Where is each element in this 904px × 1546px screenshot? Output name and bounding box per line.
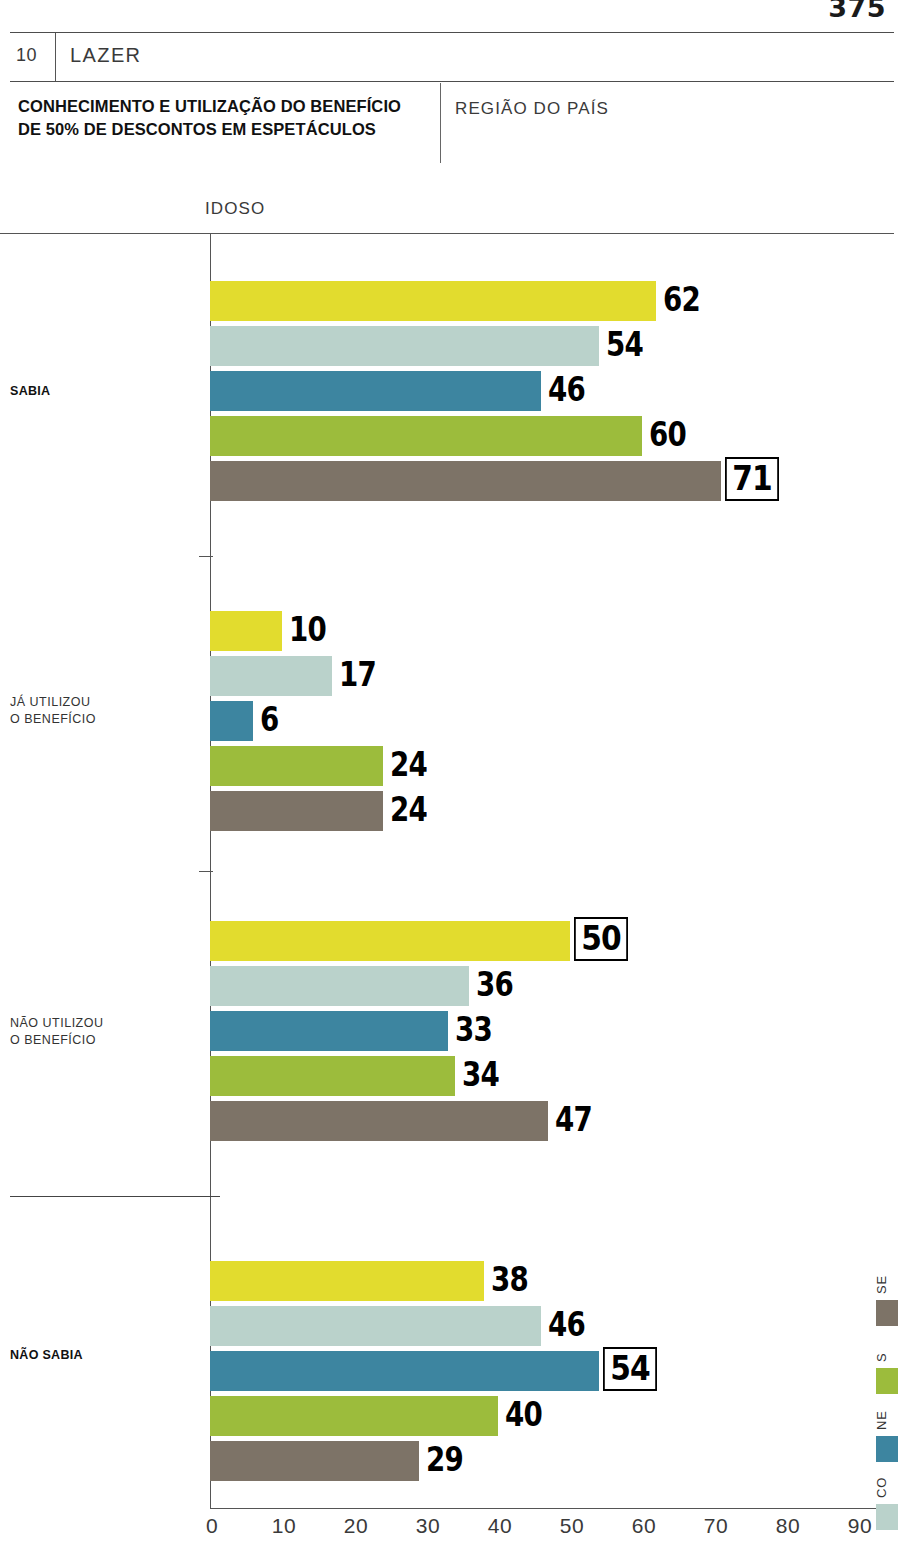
x-axis-tick-label: 70 <box>704 1514 728 1538</box>
bar-value: 46 <box>548 1308 585 1341</box>
bar-value: 10 <box>289 613 326 646</box>
legend-swatch <box>876 1300 898 1326</box>
group-label-line: O BENEFÍCIO <box>10 1032 104 1049</box>
bar-value: 34 <box>462 1058 499 1091</box>
bar-value: 47 <box>555 1103 592 1136</box>
chapter-name: LAZER <box>70 44 141 67</box>
series-group-label: IDOSO <box>205 199 265 219</box>
bar-value-highlighted: 50 <box>574 917 628 961</box>
header-rule-middle <box>10 81 894 82</box>
bar <box>210 371 541 411</box>
bar <box>210 1396 498 1436</box>
bar-value: 54 <box>606 328 643 361</box>
bar <box>210 921 570 961</box>
legend-swatch <box>876 1504 898 1530</box>
bar <box>210 701 253 741</box>
bar-value: 6 <box>260 703 278 736</box>
x-axis-tick-label: 0 <box>206 1514 218 1538</box>
bar-value: 24 <box>390 793 427 826</box>
group-label-line: NÃO SABIA <box>10 1347 83 1364</box>
page-subtitle: REGIÃO DO PAÍS <box>455 99 609 119</box>
bar <box>210 1306 541 1346</box>
group-separator-rule <box>10 1196 220 1197</box>
legend-label: S <box>874 1353 889 1362</box>
group-label: NÃO UTILIZOUO BENEFÍCIO <box>10 1015 104 1050</box>
bar-value: 38 <box>491 1263 528 1296</box>
bar <box>210 1351 599 1391</box>
x-axis-tick-label: 40 <box>488 1514 512 1538</box>
bar <box>210 1011 448 1051</box>
plot-top-rule <box>0 233 894 234</box>
bar <box>210 791 383 831</box>
bar <box>210 281 656 321</box>
y-axis-tick <box>199 556 213 557</box>
bar-value: 17 <box>339 658 376 691</box>
group-label-line: SABIA <box>10 383 50 400</box>
bar <box>210 461 721 501</box>
legend-label: CO <box>874 1477 889 1498</box>
bar <box>210 966 469 1006</box>
header-rule-top <box>10 32 894 33</box>
bar <box>210 611 282 651</box>
bar-value: 62 <box>663 283 700 316</box>
y-axis-tick <box>199 871 213 872</box>
page-number: 375 <box>828 0 886 23</box>
bar-value-highlighted: 54 <box>603 1347 657 1391</box>
page-title: CONHECIMENTO E UTILIZAÇÃO DO BENEFÍCIO D… <box>18 95 428 142</box>
chart-page: 375 10 LAZER CONHECIMENTO E UTILIZAÇÃO D… <box>0 0 904 1546</box>
bar-value-highlighted: 71 <box>725 457 779 501</box>
x-axis-tick-label: 90 <box>848 1514 872 1538</box>
bar <box>210 746 383 786</box>
bar <box>210 416 642 456</box>
chapter-number: 10 <box>16 45 37 66</box>
group-label: NÃO SABIA <box>10 1347 83 1364</box>
group-label: SABIA <box>10 383 50 400</box>
x-axis-tick-label: 10 <box>272 1514 296 1538</box>
group-label-line: JÁ UTILIZOU <box>10 694 96 711</box>
chapter-divider <box>55 33 56 81</box>
x-axis-tick-label: 60 <box>632 1514 656 1538</box>
bar <box>210 656 332 696</box>
group-label-line: O BENEFÍCIO <box>10 711 96 728</box>
x-axis-tick-label: 30 <box>416 1514 440 1538</box>
legend-swatch <box>876 1368 898 1394</box>
bar-value: 36 <box>476 968 513 1001</box>
x-axis-tick-label: 80 <box>776 1514 800 1538</box>
bar-value: 40 <box>505 1398 542 1431</box>
legend-label: SE <box>874 1275 889 1294</box>
bar-value: 24 <box>390 748 427 781</box>
x-axis-tick-label: 20 <box>344 1514 368 1538</box>
x-axis-tick-label: 50 <box>560 1514 584 1538</box>
bar <box>210 1101 548 1141</box>
bar <box>210 326 599 366</box>
group-label: JÁ UTILIZOUO BENEFÍCIO <box>10 694 96 729</box>
bar-value: 29 <box>426 1443 463 1476</box>
bar <box>210 1056 455 1096</box>
bar-value: 33 <box>455 1013 492 1046</box>
group-label-line: NÃO UTILIZOU <box>10 1015 104 1032</box>
bar-value: 60 <box>649 418 686 451</box>
bar <box>210 1441 419 1481</box>
legend-swatch <box>876 1436 898 1462</box>
legend-label: NE <box>874 1410 889 1430</box>
bar <box>210 1261 484 1301</box>
bar-value: 46 <box>548 373 585 406</box>
x-axis-line <box>210 1508 894 1509</box>
title-divider <box>440 83 441 163</box>
